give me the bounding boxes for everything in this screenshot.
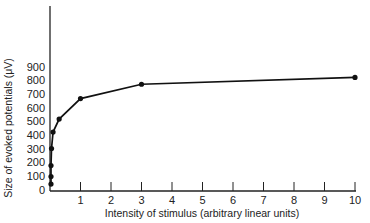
x-tick-label: 4 bbox=[169, 194, 175, 206]
x-tick-label: 5 bbox=[199, 194, 205, 206]
data-point bbox=[352, 75, 357, 80]
data-point bbox=[49, 146, 54, 151]
y-tick-label: 600 bbox=[27, 102, 45, 114]
data-point bbox=[57, 117, 62, 122]
x-tick-label: 3 bbox=[138, 194, 144, 206]
x-axis-ticks: 12345678910 bbox=[77, 182, 361, 206]
y-tick-label: 100 bbox=[27, 170, 45, 182]
data-point bbox=[78, 96, 83, 101]
x-tick-label: 9 bbox=[321, 194, 327, 206]
axes bbox=[50, 6, 356, 191]
x-tick-label: 1 bbox=[77, 194, 83, 206]
data-point bbox=[50, 130, 55, 135]
x-tick-label: 8 bbox=[291, 194, 297, 206]
data-point bbox=[139, 82, 144, 87]
y-tick-label: 800 bbox=[27, 74, 45, 86]
y-tick-label: 200 bbox=[27, 156, 45, 168]
y-tick-label: 0 bbox=[39, 184, 45, 196]
x-axis-label: Intensity of stimulus (arbitrary linear … bbox=[105, 207, 299, 219]
y-tick-label: 700 bbox=[27, 88, 45, 100]
x-tick-label: 10 bbox=[349, 194, 361, 206]
y-tick-label: 400 bbox=[27, 129, 45, 141]
series-line bbox=[51, 77, 355, 184]
y-axis-label: Size of evoked potentials (μV) bbox=[2, 58, 14, 198]
y-tick-label: 900 bbox=[27, 61, 45, 73]
y-tick-label: 500 bbox=[27, 115, 45, 127]
x-tick-label: 2 bbox=[108, 194, 114, 206]
data-point bbox=[48, 174, 53, 179]
x-tick-label: 6 bbox=[230, 194, 236, 206]
data-point bbox=[48, 163, 53, 168]
x-tick-label: 7 bbox=[260, 194, 266, 206]
y-axis-ticks: 0100200300400500600700800900 bbox=[27, 61, 45, 196]
line-chart: 0100200300400500600700800900 12345678910… bbox=[0, 0, 370, 223]
y-tick-label: 300 bbox=[27, 143, 45, 155]
data-point bbox=[48, 181, 53, 186]
data-series bbox=[48, 75, 357, 187]
